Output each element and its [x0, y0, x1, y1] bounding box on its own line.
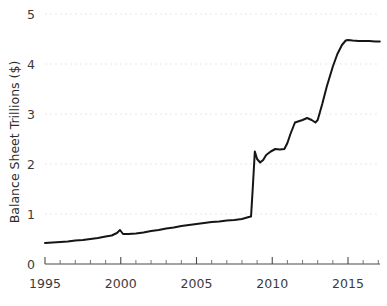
x-tick-label: 2010 — [256, 276, 288, 291]
y-tick-label: 4 — [27, 57, 35, 72]
y-tick-label: 1 — [27, 207, 35, 222]
x-tick-label: 2005 — [181, 276, 213, 291]
x-tick-label: 1995 — [29, 276, 61, 291]
x-tick-label: 2000 — [105, 276, 137, 291]
y-axis-title: Balance Sheet Trillions ($) — [7, 61, 22, 224]
chart-background — [0, 0, 387, 306]
x-tick-label: 2015 — [332, 276, 364, 291]
y-tick-label: 3 — [27, 107, 35, 122]
chart-canvas: 012345 19952000200520102015 Balance Shee… — [0, 0, 387, 306]
y-tick-label: 5 — [27, 7, 35, 22]
balance-sheet-chart: 012345 19952000200520102015 Balance Shee… — [0, 0, 387, 306]
y-tick-label: 2 — [27, 157, 35, 172]
y-tick-label: 0 — [27, 257, 35, 272]
